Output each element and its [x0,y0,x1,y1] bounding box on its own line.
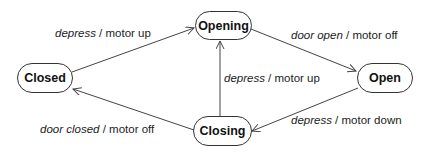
action-text: motor down [342,114,402,126]
action-text: motor off [352,29,397,41]
action-text: motor off [109,123,154,135]
transition-label-closing-closed: door closed / motor off [40,123,154,135]
separator: / [99,123,109,135]
separator: / [332,114,342,126]
event-text: depress [55,27,96,39]
event-text: depress [291,114,332,126]
state-closed: Closed [17,63,73,93]
action-text: motor up [106,27,151,39]
event-text: depress [224,72,265,84]
event-text: door open [291,29,343,41]
state-open: Open [357,63,413,93]
transition-label-closing-opening: depress / motor up [224,72,320,84]
separator: / [343,29,353,41]
transition-label-open-closing: depress / motor down [291,114,402,126]
separator: / [96,27,106,39]
action-text: motor up [275,72,320,84]
state-closing: Closing [193,116,252,146]
separator: / [265,72,275,84]
transition-label-opening-open: door open / motor off [291,29,398,41]
event-text: door closed [40,123,99,135]
transition-label-closed-opening: depress / motor up [55,27,151,39]
state-opening: Opening [195,11,252,40]
